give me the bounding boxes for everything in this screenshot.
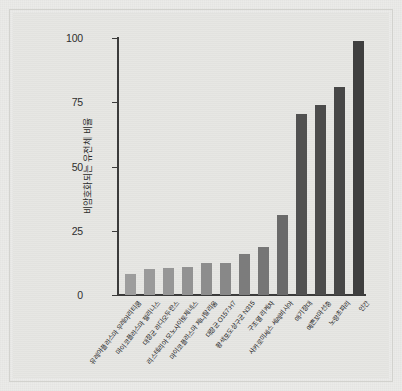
bars-group — [118, 38, 365, 295]
y-axis-label: 비암호화되는 유전체 비율 — [81, 118, 94, 215]
bar — [315, 105, 326, 295]
bar — [220, 263, 231, 295]
bar — [334, 87, 345, 295]
bar — [182, 267, 193, 295]
y-tick-label: 75 — [72, 96, 83, 108]
x-axis-category-label: 사카로미세스 세레비시아 — [245, 298, 294, 357]
bar — [201, 263, 212, 295]
x-axis-category-label: 황색포도상구균 N315 — [213, 298, 257, 350]
bar — [239, 254, 250, 295]
bar — [144, 269, 155, 295]
y-tick-label: 25 — [72, 225, 83, 237]
bar — [125, 274, 136, 295]
x-axis-category-label: 구조열 리케차 — [245, 298, 276, 333]
figure-canvas: 0255075100 비암호화되는 유전체 비율 유레아플라스마 우레아리티쿰마… — [13, 13, 389, 378]
x-axis-category-label: 노랑초파리 — [325, 298, 351, 327]
bar — [163, 268, 174, 295]
x-axis-category-label: 예쁜꼬마선충 — [303, 298, 333, 332]
y-tick-mark — [112, 102, 117, 103]
x-axis-category-label: 마이코플라스마 젤리나스 — [112, 298, 161, 357]
x-axis-category-label: 애기장대 — [291, 298, 313, 323]
bar — [258, 247, 269, 295]
y-tick-mark — [112, 167, 117, 168]
y-tick-mark — [112, 295, 117, 296]
x-axis-category-label: 리스테리아 모노사이토제네스 — [143, 298, 199, 366]
x-axis-category-label: 대장균 O157:H7 — [202, 298, 238, 340]
bar — [277, 215, 288, 295]
chart-page: 0255075100 비암호화되는 유전체 비율 유레아플라스마 우레아리티쿰마… — [0, 0, 402, 391]
y-tick-label: 100 — [66, 32, 83, 44]
x-axis-category-label: 유레아플라스마 우레아리티쿰 — [86, 298, 142, 366]
x-axis-category-label: 인간 — [355, 298, 370, 313]
bar — [353, 41, 364, 295]
x-axis-category-label: 대장균 라디오두란스 — [139, 298, 181, 347]
bar — [296, 114, 307, 295]
y-tick-mark — [112, 38, 117, 39]
y-tick-mark — [112, 231, 117, 232]
x-axis-category-label: 마이코플라스마 제니탈리움 — [166, 298, 219, 361]
y-tick-label: 0 — [77, 289, 83, 301]
